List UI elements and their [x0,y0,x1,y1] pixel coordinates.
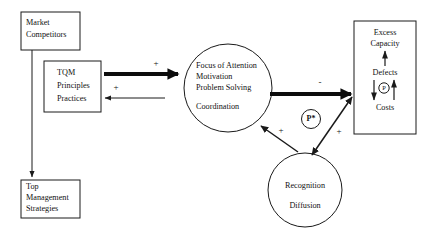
excess-capacity-node[interactable]: Excess Capacity Defects Costs P [354,21,416,134]
focus-node[interactable]: Focus of Attention Motivation Problem So… [184,44,272,132]
p-star-marker: P* [302,110,321,129]
top-management-label-line3: Strategies [26,204,58,213]
recognition-circle [268,153,342,227]
top-management-node[interactable]: Top Management Strategies [21,180,80,218]
recognition-label-line2: Diffusion [289,201,320,210]
recognition-label-line1: Recognition [285,181,325,190]
p-marker-label: P [382,84,386,91]
tqm-node[interactable]: TQM Principles Practices [44,61,101,112]
market-competitors-label-line1: Market [26,18,50,27]
tqm-label-line3: Practices [57,94,87,103]
sign-recognition-to-focus: + [278,125,283,135]
p-star-label: P* [307,114,316,123]
p-marker: P [379,83,389,93]
market-competitors-node[interactable]: Market Competitors [21,12,80,50]
market-competitors-label-line2: Competitors [26,30,66,39]
excess-capacity-label-line2: Capacity [370,39,400,48]
defects-label: Defects [372,68,397,77]
tqm-label-line2: Principles [57,81,90,90]
focus-label-line3: Problem Solving [196,83,251,92]
sign-focus-to-tqm: + [113,82,118,92]
excess-capacity-label-line1: Excess [374,28,397,37]
focus-label-line2: Motivation [196,72,232,81]
causal-loop-diagram: Market Competitors TQM Principles Practi… [0,0,428,240]
sign-focus-to-excess-capacity: - [319,77,322,87]
sign-capacity-to-recognition: + [336,126,341,136]
focus-label-line4: Coordination [196,102,239,111]
focus-label-line1: Focus of Attention [196,61,257,70]
tqm-label-line1: TQM [57,68,76,77]
top-management-label-line1: Top [26,182,39,191]
recognition-node[interactable]: Recognition Diffusion [268,153,342,227]
top-management-label-line2: Management [26,193,69,202]
diagram-canvas: Market Competitors TQM Principles Practi… [0,0,428,240]
costs-label: Costs [376,103,394,112]
sign-tqm-to-focus: + [153,58,158,68]
